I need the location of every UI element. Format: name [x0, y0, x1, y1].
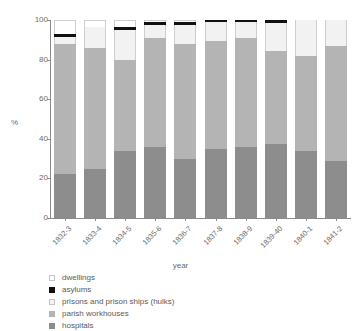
- bar-segment-hospitals[interactable]: [174, 159, 196, 218]
- bar-segment-parish-workhouses[interactable]: [114, 60, 136, 151]
- bar-segment-dwellings[interactable]: [54, 20, 76, 34]
- bar-segment-parish-workhouses[interactable]: [265, 51, 287, 144]
- bar-segment-prisons-and-prison-ships-hulks[interactable]: [235, 22, 257, 38]
- bar-column[interactable]: [114, 20, 136, 218]
- x-axis-tick-mark: [95, 218, 96, 221]
- bar-column[interactable]: [84, 20, 106, 218]
- legend-item-label: parish workhouses: [62, 310, 129, 318]
- bar-segment-parish-workhouses[interactable]: [295, 56, 317, 151]
- bar-segment-hospitals[interactable]: [235, 147, 257, 218]
- legend-swatch-workhouses-icon: [49, 311, 55, 317]
- legend-swatch-prisons-icon: [49, 299, 55, 305]
- legend-item-label: prisons and prison ships (hulks): [62, 298, 175, 306]
- legend-item-label: asylums: [62, 286, 91, 294]
- x-axis-tick-mark: [336, 218, 337, 221]
- y-axis-title: %: [11, 118, 18, 127]
- legend-swatch-hospitals-icon: [49, 323, 55, 329]
- bar-segment-prisons-and-prison-ships-hulks[interactable]: [295, 20, 317, 56]
- chart-legend: dwellingsasylumsprisons and prison ships…: [49, 272, 349, 331]
- bar-segment-dwellings[interactable]: [84, 20, 106, 27]
- bar-segment-hospitals[interactable]: [205, 149, 227, 218]
- x-axis-tick-mark: [306, 218, 307, 221]
- x-axis-tick-mark: [246, 218, 247, 221]
- legend-item[interactable]: asylums: [49, 284, 349, 296]
- legend-item[interactable]: hospitals: [49, 320, 349, 331]
- bar-segment-prisons-and-prison-ships-hulks[interactable]: [174, 25, 196, 44]
- bar-segment-dwellings[interactable]: [114, 20, 136, 27]
- bar-segment-prisons-and-prison-ships-hulks[interactable]: [265, 23, 287, 51]
- bar-column[interactable]: [325, 20, 347, 218]
- bar-segment-prisons-and-prison-ships-hulks[interactable]: [54, 37, 76, 44]
- bar-segment-prisons-and-prison-ships-hulks[interactable]: [114, 30, 136, 60]
- y-axis-tick-label: 40: [0, 135, 48, 143]
- bar-column[interactable]: [54, 20, 76, 218]
- y-axis-tick-label: 0: [0, 214, 48, 222]
- bar-segment-hospitals[interactable]: [54, 174, 76, 218]
- x-axis-tick-mark: [155, 218, 156, 221]
- y-axis-tick-label: 60: [0, 95, 48, 103]
- bar-segment-prisons-and-prison-ships-hulks[interactable]: [205, 22, 227, 41]
- y-axis-tick-label: 80: [0, 56, 48, 64]
- legend-swatch-dwellings-icon: [49, 275, 55, 281]
- bar-segment-hospitals[interactable]: [295, 151, 317, 218]
- bar-segment-parish-workhouses[interactable]: [144, 38, 166, 147]
- bar-column[interactable]: [144, 20, 166, 218]
- legend-item-label: dwellings: [62, 274, 95, 282]
- x-axis-tick-mark: [216, 218, 217, 221]
- x-axis-tick-mark: [276, 218, 277, 221]
- legend-swatch-asylums-icon: [49, 287, 55, 293]
- bar-segment-prisons-and-prison-ships-hulks[interactable]: [144, 25, 166, 38]
- bar-segment-parish-workhouses[interactable]: [235, 38, 257, 147]
- x-axis-tick-mark: [65, 218, 66, 221]
- x-axis-tick-mark: [125, 218, 126, 221]
- bar-column[interactable]: [205, 20, 227, 218]
- bar-segment-parish-workhouses[interactable]: [54, 44, 76, 175]
- bar-segment-parish-workhouses[interactable]: [84, 48, 106, 169]
- bar-segment-hospitals[interactable]: [265, 144, 287, 218]
- bar-segment-hospitals[interactable]: [144, 147, 166, 218]
- bar-segment-hospitals[interactable]: [84, 169, 106, 219]
- legend-item-label: hospitals: [62, 322, 94, 330]
- bar-column[interactable]: [265, 20, 287, 218]
- bar-segment-hospitals[interactable]: [325, 161, 347, 218]
- bar-segment-parish-workhouses[interactable]: [174, 44, 196, 159]
- legend-item[interactable]: parish workhouses: [49, 308, 349, 320]
- legend-item[interactable]: dwellings: [49, 272, 349, 284]
- x-axis-title: year: [0, 261, 361, 270]
- y-axis-tick-label: 20: [0, 174, 48, 182]
- bar-segment-prisons-and-prison-ships-hulks[interactable]: [325, 20, 347, 46]
- bar-series-group: [50, 20, 351, 218]
- bar-column[interactable]: [235, 20, 257, 218]
- y-axis-tick-label: 100: [0, 16, 48, 24]
- y-axis-tick-mark: [47, 218, 50, 219]
- bar-segment-hospitals[interactable]: [114, 151, 136, 218]
- bar-segment-parish-workhouses[interactable]: [205, 41, 227, 149]
- bar-segment-parish-workhouses[interactable]: [325, 46, 347, 161]
- stacked-bar-chart: % 020406080100 1832-31833-41834-51835-61…: [0, 0, 361, 331]
- bar-column[interactable]: [295, 20, 317, 218]
- bar-column[interactable]: [174, 20, 196, 218]
- bar-segment-prisons-and-prison-ships-hulks[interactable]: [84, 27, 106, 48]
- x-axis-tick-mark: [185, 218, 186, 221]
- legend-item[interactable]: prisons and prison ships (hulks): [49, 296, 349, 308]
